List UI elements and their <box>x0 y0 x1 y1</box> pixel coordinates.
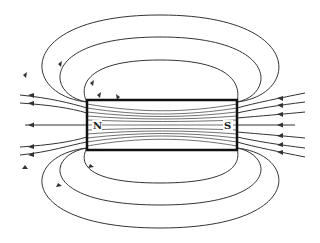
north-pole-label: N <box>93 120 102 131</box>
bar-magnet-field-diagram: N S <box>0 0 320 243</box>
south-pole-label: S <box>224 120 231 131</box>
arrow-markers <box>22 61 120 187</box>
internal-field-lines <box>87 104 237 146</box>
